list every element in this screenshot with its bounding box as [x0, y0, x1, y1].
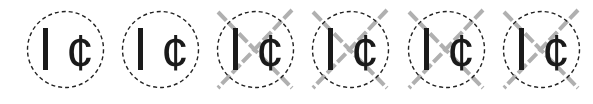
- bar-glyph: [519, 28, 524, 70]
- symbol-graphic: ¢: [113, 0, 208, 104]
- bar-glyph: [233, 28, 238, 70]
- symbol-graphic: ¢: [208, 0, 303, 104]
- symbol-item-1: ¢: [18, 0, 113, 104]
- symbol-item-6: ¢: [494, 0, 589, 104]
- symbol-item-3: ¢: [208, 0, 303, 104]
- cent-glyph: ¢: [66, 25, 94, 81]
- cent-glyph: ¢: [351, 25, 379, 81]
- symbol-item-5: ¢: [399, 0, 494, 104]
- bar-glyph: [43, 28, 48, 70]
- bar-glyph: [328, 28, 333, 70]
- bar-glyph: [138, 28, 143, 70]
- symbol-row: ¢ ¢ ¢ ¢: [0, 0, 593, 104]
- symbol-graphic: ¢: [494, 0, 589, 104]
- symbol-graphic: ¢: [303, 0, 398, 104]
- symbol-graphic: ¢: [18, 0, 113, 104]
- cent-glyph: ¢: [542, 25, 570, 81]
- bar-glyph: [424, 28, 429, 70]
- cent-glyph: ¢: [161, 25, 189, 81]
- symbol-item-4: ¢: [303, 0, 398, 104]
- symbol-graphic: ¢: [399, 0, 494, 104]
- symbol-item-2: ¢: [113, 0, 208, 104]
- cent-glyph: ¢: [256, 25, 284, 81]
- cent-glyph: ¢: [447, 25, 475, 81]
